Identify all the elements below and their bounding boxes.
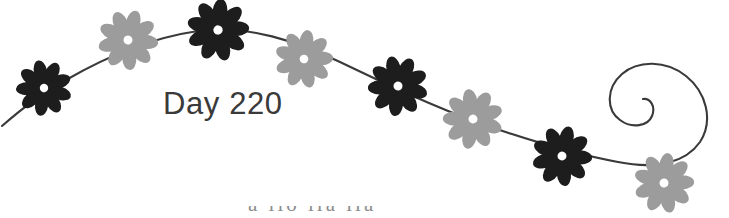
flower-4-icon xyxy=(270,26,337,93)
page-title: Day 220 xyxy=(163,88,283,119)
cropped-footer-text-clip: a llo lla lla xyxy=(248,206,488,218)
flower-1-icon xyxy=(5,50,82,127)
day-banner-graphic: Day 220 a llo lla lla xyxy=(0,0,729,218)
flower-7-icon xyxy=(525,119,600,193)
flower-8-icon xyxy=(629,149,699,218)
cropped-footer-text: a llo lla lla xyxy=(248,206,376,217)
flower-2-icon xyxy=(90,2,166,78)
flower-6-icon xyxy=(431,77,515,161)
flower-layer xyxy=(5,0,699,218)
banner-artwork xyxy=(0,0,729,218)
flower-5-icon xyxy=(357,45,439,127)
